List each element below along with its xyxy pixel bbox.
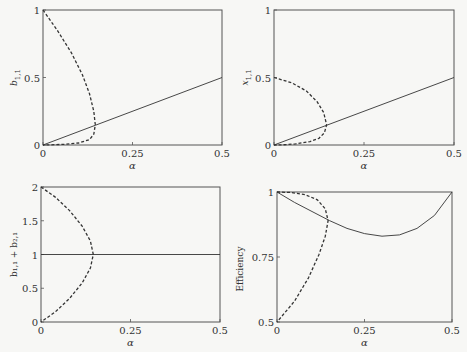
y-tick-label: 1 xyxy=(268,187,274,198)
y-tick-label: 0.5 xyxy=(258,317,274,328)
dashed-curve xyxy=(277,192,328,322)
y-axis-label: b1,1 xyxy=(9,69,22,86)
y-tick-label: 0 xyxy=(265,140,271,151)
solid-curve xyxy=(277,192,452,236)
y-tick-label: 0.5 xyxy=(255,73,271,84)
y-tick-label: 1 xyxy=(265,5,271,16)
y-tick-label: 1 xyxy=(34,5,40,16)
solid-curve xyxy=(274,78,454,146)
y-tick-label: 1 xyxy=(32,250,38,261)
dashed-curve xyxy=(43,10,95,145)
x-tick-label: 0 xyxy=(38,325,44,336)
y-tick-label: 2 xyxy=(32,182,38,193)
y-tick-label: 0.5 xyxy=(24,73,40,84)
subplot-top-right: 00.250.500.51αx1,1 xyxy=(240,5,462,171)
y-tick-label: 1.5 xyxy=(22,216,38,227)
x-axis-label: α xyxy=(361,337,368,348)
axes-frame xyxy=(274,10,454,145)
x-tick-label: 0.5 xyxy=(212,325,228,336)
y-axis-label: Efficiency xyxy=(235,246,245,292)
subplot-bottom-left: 00.250.500.511.52αb₁,₁ + b₂,₁ xyxy=(9,182,228,348)
figure: 00.250.500.51αb1,100.250.500.51αx1,100.2… xyxy=(0,0,467,352)
x-tick-label: 0.5 xyxy=(446,148,462,159)
x-tick-label: 0.25 xyxy=(353,325,375,336)
x-axis-label: α xyxy=(129,160,136,171)
x-tick-label: 0.25 xyxy=(121,148,143,159)
y-tick-label: 0.75 xyxy=(252,252,274,263)
x-tick-label: 0.5 xyxy=(214,148,230,159)
x-tick-label: 0.25 xyxy=(353,148,375,159)
x-tick-label: 0 xyxy=(274,325,280,336)
y-tick-label: 0 xyxy=(32,317,38,328)
axes-frame xyxy=(43,10,222,145)
y-axis-label: b₁,₁ + b₂,₁ xyxy=(9,232,19,277)
subplot-top-left: 00.250.500.51αb1,1 xyxy=(9,5,230,171)
subplot-bottom-right: 00.250.50.50.751αEfficiency xyxy=(235,187,460,348)
x-tick-label: 0 xyxy=(40,148,46,159)
x-axis-label: α xyxy=(361,160,368,171)
axes-frame xyxy=(277,192,452,322)
x-tick-label: 0.5 xyxy=(444,325,460,336)
x-tick-label: 0.25 xyxy=(119,325,141,336)
x-tick-label: 0 xyxy=(271,148,277,159)
y-tick-label: 0.5 xyxy=(22,283,38,294)
x-axis-label: α xyxy=(127,337,134,348)
y-axis-label: x1,1 xyxy=(240,69,253,85)
y-tick-label: 0 xyxy=(34,140,40,151)
solid-curve xyxy=(43,78,222,146)
